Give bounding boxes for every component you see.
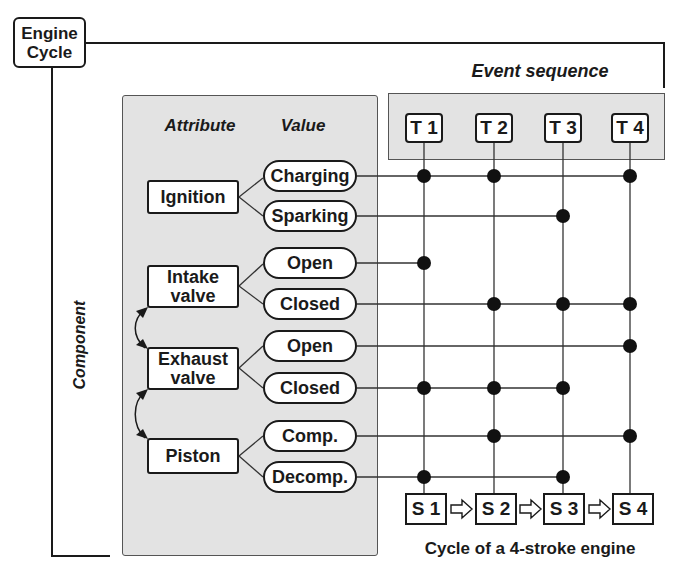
attribute-ignition: Ignition [147,180,239,214]
attribute-piston: Piston [147,438,239,474]
stroke-s3: S 3 [543,493,585,525]
event-t3: T 3 [544,113,582,143]
stroke-s4: S 4 [612,493,654,525]
title-line-1: Engine [21,24,78,43]
value-piston-decomp: Decomp. [263,461,357,493]
value-intake-closed: Closed [263,288,357,320]
value-intake-open: Open [263,247,357,279]
event-dot [417,169,431,183]
attribute-intake-valve: Intakevalve [147,265,239,308]
event-dot [556,297,570,311]
event-dot [417,470,431,484]
component-axis-label: Component [71,301,89,390]
event-dot [623,169,637,183]
engine-cycle-box: Engine Cycle [13,17,86,68]
value-exhaust-open: Open [263,330,357,362]
value-piston-comp: Comp. [263,420,357,452]
event-sequence-header: Event sequence [440,62,640,80]
event-dot [623,429,637,443]
arrow-right-icon [451,500,472,518]
stroke-s1: S 1 [405,493,447,525]
event-dot [487,381,501,395]
stroke-s2: S 2 [475,493,517,525]
title-line-2: Cycle [21,43,78,62]
attribute-exhaust-valve: Exhaustvalve [147,347,239,390]
event-dot [487,429,501,443]
arrow-right-icon [589,500,610,518]
attribute-header: Attribute [150,117,250,134]
event-dot [487,169,501,183]
value-ignition-charging: Charging [263,160,357,192]
event-dot [487,297,501,311]
event-t1: T 1 [405,113,443,143]
caption: Cycle of a 4-stroke engine [395,540,665,557]
event-dot [556,381,570,395]
event-dot [623,339,637,353]
event-t2: T 2 [475,113,513,143]
event-dot [417,381,431,395]
value-header: Value [268,117,338,134]
value-exhaust-closed: Closed [263,372,357,404]
event-dot [556,209,570,223]
event-dot [556,470,570,484]
event-dot [623,297,637,311]
event-dot [417,256,431,270]
value-ignition-sparking: Sparking [263,200,357,232]
event-t4: T 4 [611,113,649,143]
arrow-right-icon [520,500,541,518]
